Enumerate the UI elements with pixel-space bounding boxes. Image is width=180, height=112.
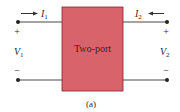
v1-subscript: 1 (20, 51, 24, 59)
svg-text:V1: V1 (14, 46, 24, 59)
port2-top-terminal (165, 20, 169, 24)
arrow-left-head-icon (148, 12, 153, 16)
port1-bottom-terminal (16, 78, 20, 82)
current-i2: I2 (134, 8, 164, 21)
port1-minus: − (14, 65, 20, 76)
svg-text:I1: I1 (40, 8, 48, 21)
port1-top-terminal (16, 20, 20, 24)
two-port-diagram: Two-port I1 I2 + V1 − + V2 − (a) (0, 0, 180, 112)
two-port-label: Two-port (74, 43, 111, 54)
svg-text:V2: V2 (160, 46, 170, 59)
svg-text:I2: I2 (134, 8, 142, 21)
i1-subscript: 1 (44, 13, 48, 21)
current-i1: I1 (21, 8, 48, 21)
port1-plus: + (14, 26, 20, 37)
port2-plus: + (163, 26, 169, 37)
port2-bottom-terminal (165, 78, 169, 82)
arrow-right-head-icon (33, 12, 38, 16)
caption: (a) (86, 99, 96, 109)
v2-subscript: 2 (166, 51, 170, 59)
i2-subscript: 2 (138, 13, 142, 21)
port2-minus: − (163, 65, 169, 76)
